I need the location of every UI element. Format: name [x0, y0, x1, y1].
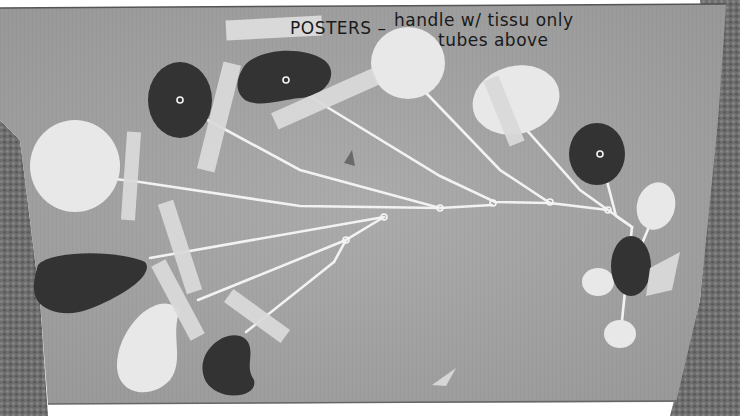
photo-frame: POSTERS – handle w/ tissu only tubes abo… — [0, 0, 740, 416]
mobile-sculpture-photo: POSTERS – handle w/ tissu only tubes abo… — [0, 0, 740, 416]
note-line1-rest: handle w/ tissu only — [394, 10, 574, 30]
dark-disc — [611, 236, 651, 296]
light-disc — [371, 27, 445, 99]
light-disc — [604, 320, 636, 348]
note-line2: tubes above — [438, 30, 549, 50]
note-line1-prefix: POSTERS – — [290, 18, 387, 38]
light-disc — [582, 268, 614, 296]
dark-disc — [148, 62, 212, 138]
light-disc — [30, 120, 120, 212]
